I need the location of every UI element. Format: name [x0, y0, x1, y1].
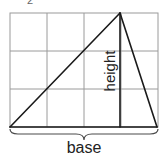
partial-top-label: 2	[27, 0, 33, 6]
height-label: height	[101, 50, 118, 92]
grid	[10, 13, 158, 127]
triangle-diagram: 2 height base	[0, 0, 165, 157]
base-label: base	[67, 139, 102, 156]
triangle-right-side	[120, 13, 157, 127]
